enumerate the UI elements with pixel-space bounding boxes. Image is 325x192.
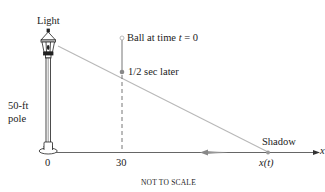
x-axis-label: x — [320, 146, 325, 157]
ball-initial-label: Ball at time t = 0 — [127, 33, 198, 44]
axis-arrowhead-icon — [313, 150, 320, 155]
pole-label: pole — [8, 114, 26, 125]
ball-initial-icon — [120, 36, 124, 40]
shadow-position-label: x(t) — [259, 158, 274, 169]
light-label: Light — [37, 16, 60, 27]
shadow-point-icon — [266, 151, 270, 155]
lamp-post-icon — [39, 29, 57, 154]
x-axis — [56, 150, 320, 155]
pole-height-label: 50-ft — [8, 101, 28, 112]
ball-later-label: 1/2 sec later — [128, 67, 179, 78]
not-to-scale-note: NOT TO SCALE — [141, 179, 196, 187]
ball-later-icon — [120, 70, 125, 75]
ball-path — [120, 36, 125, 152]
light-ray — [58, 46, 268, 152]
ball-position-tick-label: 30 — [116, 158, 127, 169]
origin-tick-label: 0 — [45, 158, 50, 169]
shadow-motion-arrow-icon — [200, 150, 228, 156]
shadow-label: Shadow — [262, 137, 296, 148]
